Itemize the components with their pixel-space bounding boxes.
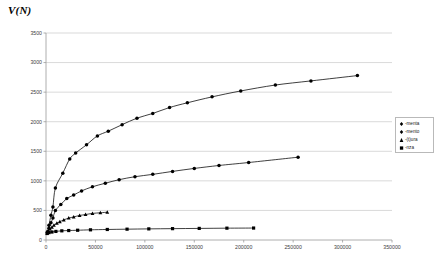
data-point (61, 171, 64, 175)
data-point (59, 203, 63, 207)
data-point (239, 89, 243, 93)
legend-item[interactable]: -menta (398, 120, 432, 128)
data-point (171, 170, 175, 174)
data-point (117, 178, 121, 182)
diamond-marker-icon (398, 120, 405, 128)
svg-text:250000: 250000 (284, 244, 301, 250)
data-point (52, 223, 56, 227)
series-markers (45, 74, 359, 235)
data-point (51, 216, 55, 220)
data-point (193, 167, 197, 171)
data-point (107, 129, 111, 133)
data-point (104, 181, 108, 185)
legend-item-label: -menta (405, 120, 419, 128)
data-point (296, 155, 300, 159)
data-point (247, 161, 251, 165)
svg-text:300000: 300000 (334, 244, 351, 250)
legend-item[interactable]: -(t)ura (398, 136, 432, 144)
svg-text:200000: 200000 (235, 244, 252, 250)
legend-item-label: -nza (405, 144, 414, 152)
data-point (151, 173, 155, 177)
data-point (47, 231, 50, 234)
data-point (168, 106, 172, 110)
square-marker-icon (398, 144, 405, 152)
data-point (65, 197, 69, 201)
plot-area: 0500100015002000250030003500 05000010000… (0, 0, 446, 267)
data-point (49, 213, 53, 217)
data-point (54, 186, 58, 190)
series-curves (47, 76, 357, 234)
axis-lines (44, 33, 393, 243)
data-point (120, 123, 124, 127)
svg-text:350000: 350000 (383, 244, 400, 250)
data-point (186, 101, 190, 105)
svg-text:3500: 3500 (30, 30, 42, 36)
data-point (252, 226, 255, 229)
svg-text:1500: 1500 (30, 148, 42, 154)
data-point (217, 164, 221, 168)
data-point (356, 74, 360, 78)
data-point (151, 112, 155, 116)
data-point (171, 227, 174, 230)
data-point (309, 79, 313, 83)
data-point (54, 209, 58, 213)
data-point (147, 227, 150, 230)
data-point (85, 143, 89, 147)
data-point (76, 229, 79, 232)
data-point (91, 185, 95, 189)
legend-item-label: -(t)ura (405, 136, 418, 144)
svg-text:2500: 2500 (30, 89, 42, 95)
svg-text:100000: 100000 (136, 244, 153, 250)
legend-item-label: -mento (405, 128, 419, 136)
y-tick-labels: 0500100015002000250030003500 (30, 30, 42, 243)
svg-text:50000: 50000 (88, 244, 103, 250)
data-point (74, 151, 78, 155)
data-point (106, 228, 109, 231)
data-point (68, 157, 72, 161)
data-point (225, 227, 228, 230)
svg-text:0: 0 (45, 244, 48, 250)
grid-lines (46, 33, 392, 210)
diamond-marker-icon (398, 128, 405, 136)
data-point (125, 228, 128, 231)
data-point (60, 229, 63, 232)
data-point (198, 227, 201, 230)
data-point (72, 193, 76, 197)
svg-text:2000: 2000 (30, 119, 42, 125)
svg-text:500: 500 (33, 207, 42, 213)
legend-item[interactable]: -nza (398, 144, 432, 152)
svg-text:0: 0 (39, 237, 42, 243)
legend-item[interactable]: -mento (398, 128, 432, 136)
svg-text:3000: 3000 (30, 59, 42, 65)
data-point (67, 229, 70, 232)
data-point (274, 83, 278, 87)
data-point (80, 189, 84, 193)
data-point (50, 230, 53, 233)
data-point (54, 230, 57, 233)
legend: -menta -mento -(t)ura -nza (395, 117, 434, 153)
chart-container: V(N) 0500100015002000250030003500 050000… (0, 0, 446, 267)
data-point (51, 205, 55, 209)
data-point (133, 175, 137, 179)
svg-text:150000: 150000 (186, 244, 203, 250)
data-point (210, 95, 214, 99)
x-tick-labels: 0500001000001500002000002500003000003500… (45, 244, 401, 250)
svg-text:1000: 1000 (30, 178, 42, 184)
data-point (89, 228, 92, 231)
data-point (49, 221, 53, 225)
data-point (96, 134, 100, 138)
triangle-marker-icon (398, 136, 405, 144)
data-point (135, 116, 139, 120)
